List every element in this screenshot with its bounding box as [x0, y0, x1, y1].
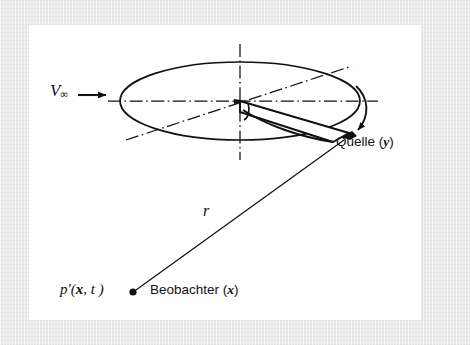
freestream-velocity-label: V∞	[50, 82, 69, 100]
observer-label: Beobachter (x)	[150, 283, 239, 297]
source-label: Quelle (y)	[336, 135, 394, 149]
observer-point-marker	[129, 288, 136, 295]
distance-label-r: r	[203, 203, 209, 219]
figure-page: V∞ Quelle (y) r p′(x, t ) Beobachter (x)	[0, 0, 470, 345]
pressure-comma: ,	[83, 281, 91, 297]
pressure-symbol: p′(	[60, 281, 76, 297]
observer-label-close: )	[234, 282, 239, 297]
pressure-close: )	[95, 281, 104, 297]
observer-label-text: Beobachter (	[150, 282, 227, 297]
source-label-close: )	[389, 134, 394, 149]
pressure-label: p′(x, t )	[60, 281, 104, 297]
source-label-text: Quelle (	[336, 134, 383, 149]
freestream-subscript: ∞	[59, 88, 68, 101]
distance-line-r	[136, 140, 344, 290]
